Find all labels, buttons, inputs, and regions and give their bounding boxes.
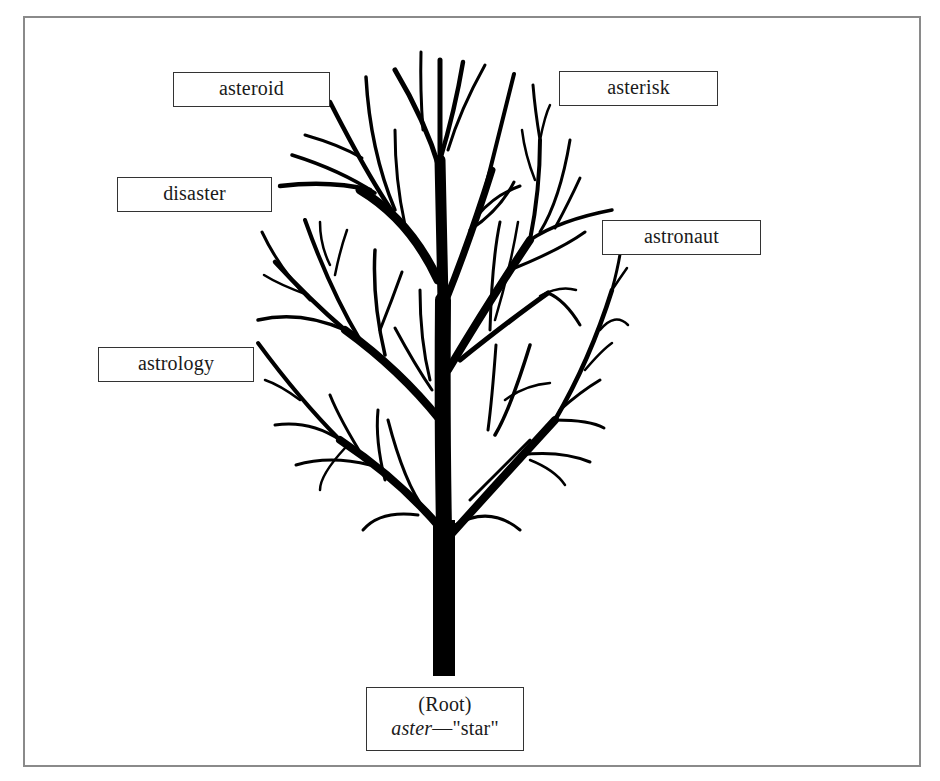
tree-illustration bbox=[0, 0, 940, 781]
branch-label-astrology: astrology bbox=[98, 347, 254, 382]
root-label: (Root) aster—"star" bbox=[366, 687, 524, 751]
branch-label-asteroid: asteroid bbox=[173, 72, 330, 107]
branch-label-astronaut: astronaut bbox=[602, 220, 761, 255]
root-meaning: "star" bbox=[452, 717, 498, 739]
root-dash: — bbox=[432, 717, 452, 739]
branch-label-disaster: disaster bbox=[117, 177, 272, 212]
root-word: aster bbox=[391, 717, 432, 739]
root-definition: aster—"star" bbox=[367, 716, 523, 740]
branch-label-asterisk: asterisk bbox=[559, 71, 718, 106]
root-heading: (Root) bbox=[367, 692, 523, 716]
